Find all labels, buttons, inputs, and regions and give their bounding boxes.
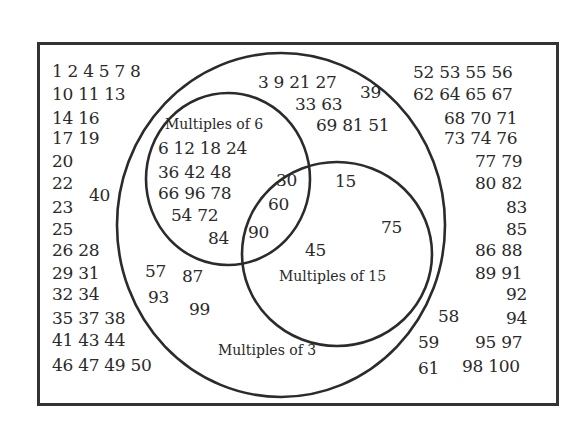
region-outside-numbers: 35 37 38	[52, 309, 125, 327]
region-outside-numbers: 86 88	[475, 241, 522, 259]
region-multiples-of-3-only-numbers: 87	[182, 267, 203, 285]
region-multiples-of-6-only-numbers: 6 12 18 24	[158, 139, 247, 157]
region-outside-numbers: 98 100	[462, 357, 520, 375]
region-outside-numbers: 77 79	[475, 152, 522, 170]
region-outside-numbers: 95 97	[475, 333, 522, 351]
set-label: Multiples of 15	[279, 268, 386, 284]
region-outside-numbers: 41 43 44	[52, 331, 125, 349]
region-outside-numbers: 58	[438, 307, 459, 325]
region-multiples-of-3-only-numbers: 93	[148, 288, 169, 306]
region-multiples-of-3-only-numbers: 99	[189, 300, 210, 318]
region-outside-numbers: 52 53 55 56	[413, 63, 512, 81]
region-multiples-of-6-and-15-numbers: 30	[276, 171, 297, 189]
region-outside-numbers: 40	[89, 186, 110, 204]
region-outside-numbers: 29 31	[52, 264, 99, 282]
region-outside-numbers: 83	[506, 198, 527, 216]
region-outside-numbers: 73 74 76	[444, 129, 517, 147]
region-outside-numbers: 68 70 71	[444, 109, 517, 127]
region-multiples-of-6-and-15-numbers: 90	[248, 223, 269, 241]
set-label: Multiples of 3	[218, 342, 316, 358]
set-label: Multiples of 6	[165, 116, 263, 132]
region-outside-numbers: 32 34	[52, 285, 99, 303]
region-outside-numbers: 22	[52, 174, 73, 192]
region-multiples-of-6-only-numbers: 54 72	[171, 206, 218, 224]
region-multiples-of-15-only-numbers: 15	[335, 172, 356, 190]
region-outside-numbers: 92	[506, 285, 527, 303]
region-outside-numbers: 26 28	[52, 241, 99, 259]
region-outside-numbers: 10 11 13	[52, 85, 125, 103]
region-multiples-of-3-only-numbers: 39	[360, 83, 381, 101]
region-outside-numbers: 23	[52, 198, 73, 216]
region-outside-numbers: 17 19	[52, 129, 99, 147]
region-outside-numbers: 62 64 65 67	[413, 85, 512, 103]
region-outside-numbers: 61	[418, 359, 439, 377]
region-multiples-of-6-only-numbers: 84	[208, 229, 229, 247]
region-multiples-of-3-only-numbers: 69 81 51	[316, 116, 389, 134]
region-multiples-of-6-and-15-numbers: 60	[268, 195, 289, 213]
region-outside-numbers: 94	[506, 309, 527, 327]
region-outside-numbers: 1 2 4 5 7 8	[52, 62, 141, 80]
region-multiples-of-3-only-numbers: 33 63	[295, 95, 342, 113]
region-outside-numbers: 46 47 49 50	[52, 356, 151, 374]
region-multiples-of-3-only-numbers: 57	[145, 262, 166, 280]
region-outside-numbers: 89 91	[475, 264, 522, 282]
region-outside-numbers: 80 82	[475, 174, 522, 192]
region-outside-numbers: 14 16	[52, 109, 99, 127]
region-outside-numbers: 85	[506, 220, 527, 238]
region-multiples-of-15-only-numbers: 75	[381, 218, 402, 236]
region-outside-numbers: 20	[52, 152, 73, 170]
region-multiples-of-6-only-numbers: 36 42 48	[158, 163, 231, 181]
region-multiples-of-15-only-numbers: 45	[305, 241, 326, 259]
region-outside-numbers: 59	[418, 333, 439, 351]
region-outside-numbers: 25	[52, 220, 73, 238]
region-multiples-of-6-only-numbers: 66 96 78	[158, 184, 231, 202]
region-multiples-of-3-only-numbers: 3 9 21 27	[258, 73, 336, 91]
